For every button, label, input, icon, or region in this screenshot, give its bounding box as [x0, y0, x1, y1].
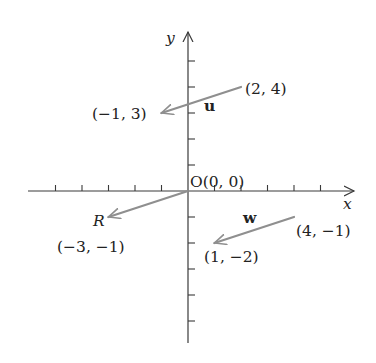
y-axis-label: y	[165, 29, 175, 47]
vector-u-arrow	[162, 87, 242, 113]
vector-u-head-label: (−1, 3)	[92, 105, 147, 123]
vector-r-name: R	[92, 212, 105, 230]
vector-u-tail-label: (2, 4)	[245, 80, 287, 98]
coordinate-plane: y x O(0, 0) u (2, 4) (−1, 3) R (−3, −1) …	[0, 0, 376, 363]
vector-w-head-label: (1, −2)	[204, 248, 259, 266]
origin-label: O(0, 0)	[190, 173, 244, 191]
vector-w-name: w	[242, 208, 257, 227]
x-axis-label: x	[343, 195, 352, 213]
vector-r-arrow	[109, 191, 189, 217]
coordinate-plane-figure: y x O(0, 0) u (2, 4) (−1, 3) R (−3, −1) …	[0, 0, 376, 363]
vector-r-head-label: (−3, −1)	[57, 238, 125, 256]
vector-u-name: u	[204, 96, 215, 115]
vector-w-tail-label: (4, −1)	[296, 222, 351, 240]
